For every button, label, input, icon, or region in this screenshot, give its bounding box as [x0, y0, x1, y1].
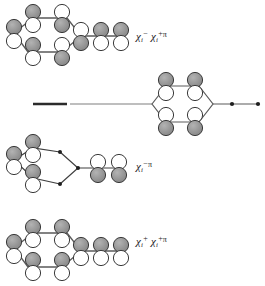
- lobe-white: [25, 265, 40, 280]
- lobe-shaded: [54, 50, 69, 65]
- row1-lobes: [6, 4, 128, 65]
- lobe-white: [158, 85, 173, 100]
- structure-row-2: [33, 72, 260, 135]
- lobe-white: [25, 147, 40, 162]
- label-row-3: χi−π: [136, 157, 152, 174]
- row3-lobes: [6, 134, 126, 192]
- row3-right-vee-bonds: [60, 152, 78, 184]
- node-dot: [58, 150, 62, 154]
- lobe-shaded: [6, 19, 21, 34]
- lobe-white: [25, 17, 40, 32]
- lobe-shaded: [158, 120, 173, 135]
- row3-node-dots: [58, 150, 80, 186]
- structure-row-4: [6, 219, 128, 280]
- row2-lobes: [158, 72, 202, 135]
- node-dot: [58, 182, 62, 186]
- label-row4-pi: π: [163, 235, 167, 244]
- lobe-white: [54, 232, 69, 247]
- lobe-white: [54, 265, 69, 280]
- structure-row-1: [6, 4, 128, 65]
- node-dot: [76, 166, 80, 170]
- label-row3-pi: π: [148, 160, 152, 169]
- lobe-white: [25, 232, 40, 247]
- label-row4-sup1: +: [143, 234, 148, 243]
- lobe-white: [25, 177, 40, 192]
- lobe-shaded: [187, 120, 202, 135]
- lobe-white: [73, 250, 88, 265]
- node-dot: [230, 102, 234, 106]
- lobe-white: [93, 250, 108, 265]
- lobe-shaded: [6, 234, 21, 249]
- structure-row-3: [6, 134, 126, 192]
- lobe-shaded: [73, 35, 88, 50]
- row4-hexagon-bonds: [14, 233, 81, 267]
- lobe-white: [6, 248, 21, 263]
- lobe-white: [6, 33, 21, 48]
- lobe-white: [113, 250, 128, 265]
- label-row-4: χi+χi+π: [136, 232, 167, 249]
- orbital-diagram-svg: [0, 0, 265, 286]
- row1-hexagon-bonds: [14, 18, 81, 52]
- lobe-white: [25, 50, 40, 65]
- lobe-white: [187, 85, 202, 100]
- row4-lobes: [6, 219, 128, 280]
- node-dot: [256, 102, 260, 106]
- label-row-1: χi−χi+π: [136, 27, 167, 44]
- lobe-shaded: [90, 167, 105, 182]
- lobe-shaded: [54, 17, 69, 32]
- figure-canvas: χi−χi+π χi−π χi+χi+π: [0, 0, 265, 286]
- lobe-white: [6, 159, 21, 174]
- lobe-white: [113, 35, 128, 50]
- label-row1-sup1: −: [143, 29, 148, 38]
- lobe-shaded: [111, 167, 126, 182]
- lobe-white: [93, 35, 108, 50]
- label-row1-pi: π: [163, 30, 167, 39]
